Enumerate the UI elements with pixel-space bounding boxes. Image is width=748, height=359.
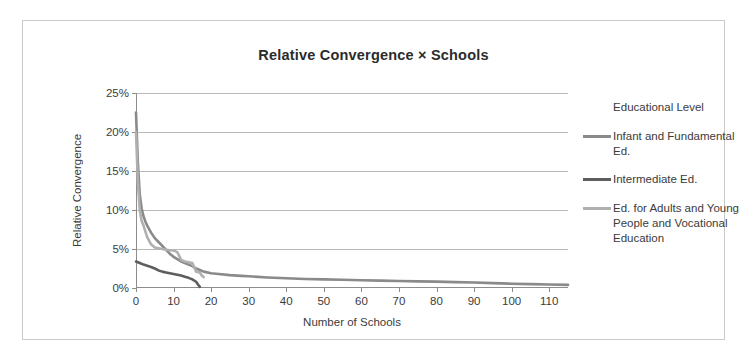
x-tick-label: 80 — [430, 295, 443, 307]
x-tick-label: 70 — [393, 295, 406, 307]
series-lines — [136, 93, 568, 288]
x-tick-label: 10 — [167, 295, 180, 307]
x-tick-label: 100 — [502, 295, 521, 307]
legend-swatch — [583, 135, 611, 138]
x-tick-label: 40 — [280, 295, 293, 307]
legend-label: Infant and Fundamental Ed. — [613, 129, 748, 159]
x-tick-label: 60 — [355, 295, 368, 307]
y-tick-label: 10% — [106, 204, 129, 216]
legend-items: Infant and Fundamental Ed.Intermediate E… — [583, 129, 748, 246]
series-line — [136, 113, 568, 285]
x-axis-title: Number of Schools — [136, 316, 568, 328]
y-tick-label: 25% — [106, 87, 129, 99]
x-tick-label: 20 — [205, 295, 218, 307]
chart-title: Relative Convergence × Schools — [23, 47, 724, 63]
y-tick-label: 0% — [112, 282, 129, 294]
legend-item[interactable]: Ed. for Adults and Young People and Voca… — [583, 201, 748, 247]
chart-frame: Relative Convergence × Schools Relative … — [22, 20, 725, 340]
legend-item[interactable]: Intermediate Ed. — [583, 172, 748, 187]
x-tick-label: 50 — [317, 295, 330, 307]
legend-title: Educational Level — [583, 101, 748, 113]
x-tick-label: 90 — [468, 295, 481, 307]
y-tick-label: 15% — [106, 165, 129, 177]
plot-area: 0%5%10%15%20%25% 01020304050607080901001… — [136, 93, 568, 288]
chart-legend: Educational Level Infant and Fundamental… — [583, 101, 748, 259]
y-tick-label: 20% — [106, 126, 129, 138]
x-tick-label: 30 — [242, 295, 255, 307]
x-tick-label: 110 — [540, 295, 558, 307]
legend-label: Ed. for Adults and Young People and Voca… — [613, 201, 748, 247]
y-tick-label: 5% — [112, 243, 129, 255]
y-axis-title: Relative Convergence — [71, 93, 83, 288]
legend-item[interactable]: Infant and Fundamental Ed. — [583, 129, 748, 159]
legend-swatch — [583, 207, 611, 210]
legend-swatch — [583, 178, 611, 181]
legend-label: Intermediate Ed. — [613, 172, 697, 187]
x-tick-label: 0 — [133, 295, 139, 307]
